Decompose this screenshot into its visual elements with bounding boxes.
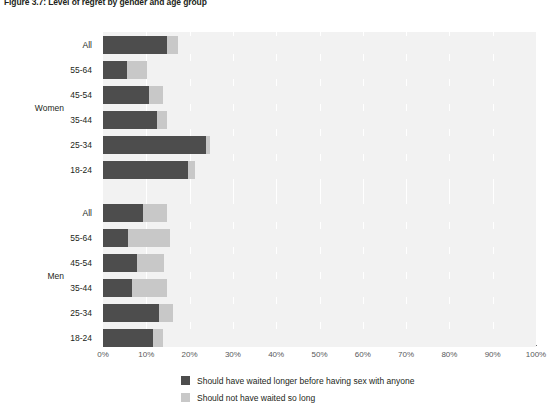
bar-row bbox=[103, 204, 536, 222]
bar-segment-waited-longer bbox=[103, 229, 128, 247]
bar-segment-waited-longer bbox=[103, 279, 132, 297]
bar-segment-not-waited-so-long bbox=[167, 36, 179, 54]
x-axis-tick-100: 100% bbox=[516, 350, 553, 359]
bar-segment-waited-longer bbox=[103, 36, 167, 54]
bar-segment-not-waited-so-long bbox=[127, 61, 147, 79]
category-label-men-25-34: 25-34 bbox=[0, 307, 92, 319]
category-label-women-55-64: 55-64 bbox=[0, 64, 92, 76]
bar-row bbox=[103, 61, 536, 79]
x-axis-tick-60: 60% bbox=[343, 350, 383, 359]
bar-segment-remainder bbox=[147, 61, 536, 79]
bar-row bbox=[103, 254, 536, 272]
category-label-women-35-44: 35-44 bbox=[0, 114, 92, 126]
x-axis-tick-70: 70% bbox=[386, 350, 426, 359]
category-label-men-all: All bbox=[0, 207, 92, 219]
bar-segment-remainder bbox=[178, 36, 536, 54]
bar-segment-remainder bbox=[167, 279, 536, 297]
bar-segment-not-waited-so-long bbox=[149, 86, 163, 104]
bar-segment-not-waited-so-long bbox=[132, 279, 167, 297]
bar-segment-waited-longer bbox=[103, 86, 149, 104]
legend-swatch-not-waited-so-long bbox=[181, 393, 190, 402]
bar-row bbox=[103, 36, 536, 54]
bar-segment-remainder bbox=[163, 329, 536, 347]
bar-row bbox=[103, 111, 536, 129]
bar-segment-not-waited-so-long bbox=[159, 304, 173, 322]
category-label-men-18-24: 18-24 bbox=[0, 332, 92, 344]
bar-segment-waited-longer bbox=[103, 136, 206, 154]
x-axis-tick-20: 20% bbox=[170, 350, 210, 359]
bar-segment-waited-longer bbox=[103, 254, 137, 272]
bar-row bbox=[103, 86, 536, 104]
bar-row bbox=[103, 136, 536, 154]
legend-swatch-waited-longer bbox=[181, 376, 190, 385]
bar-segment-remainder bbox=[163, 86, 536, 104]
bar-segment-waited-longer bbox=[103, 111, 157, 129]
bar-segment-not-waited-so-long bbox=[137, 254, 164, 272]
bar-row bbox=[103, 304, 536, 322]
bar-segment-waited-longer bbox=[103, 61, 127, 79]
bar-segment-remainder bbox=[195, 161, 536, 179]
bar-segment-remainder bbox=[167, 111, 536, 129]
category-label-women-45-54: 45-54 bbox=[0, 89, 92, 101]
bar-segment-remainder bbox=[167, 204, 536, 222]
legend-label: Should not have waited so long bbox=[197, 393, 315, 403]
bar-segment-waited-longer bbox=[103, 161, 188, 179]
x-axis-tick-30: 30% bbox=[213, 350, 253, 359]
bar-segment-remainder bbox=[164, 254, 536, 272]
bar-row bbox=[103, 329, 536, 347]
category-label-men-55-64: 55-64 bbox=[0, 232, 92, 244]
bar-segment-not-waited-so-long bbox=[157, 111, 167, 129]
bar-segment-remainder bbox=[170, 229, 536, 247]
chart-legend: Should have waited longer before having … bbox=[181, 372, 553, 406]
group-label-men: Men bbox=[18, 270, 64, 282]
category-label-men-45-54: 45-54 bbox=[0, 257, 92, 269]
category-label-women-18-24: 18-24 bbox=[0, 164, 92, 176]
bar-segment-not-waited-so-long bbox=[153, 329, 163, 347]
group-label-women: Women bbox=[18, 102, 64, 114]
x-axis-tick-90: 90% bbox=[473, 350, 513, 359]
legend-item[interactable]: Should not have waited so long bbox=[181, 389, 553, 406]
bar-segment-not-waited-so-long bbox=[188, 161, 195, 179]
category-label-women-all: All bbox=[0, 39, 92, 51]
x-axis-tick-10: 10% bbox=[126, 350, 166, 359]
category-label-women-25-34: 25-34 bbox=[0, 139, 92, 151]
bar-row bbox=[103, 279, 536, 297]
bar-segment-remainder bbox=[173, 304, 536, 322]
category-label-men-35-44: 35-44 bbox=[0, 282, 92, 294]
stacked-bar-chart: All55-6445-5435-4425-3418-24WomenAll55-6… bbox=[0, 0, 553, 407]
x-axis-tick-50: 50% bbox=[300, 350, 340, 359]
x-axis-tick-0: 0% bbox=[83, 350, 123, 359]
bar-row bbox=[103, 161, 536, 179]
bar-segment-remainder bbox=[210, 136, 536, 154]
x-axis-tick-40: 40% bbox=[256, 350, 296, 359]
legend-item[interactable]: Should have waited longer before having … bbox=[181, 372, 553, 389]
bar-segment-waited-longer bbox=[103, 304, 159, 322]
x-axis-tick-80: 80% bbox=[429, 350, 469, 359]
gridline-100 bbox=[536, 32, 537, 345]
legend-label: Should have waited longer before having … bbox=[197, 376, 414, 386]
bar-segment-waited-longer bbox=[103, 204, 143, 222]
bar-segment-not-waited-so-long bbox=[143, 204, 167, 222]
bar-row bbox=[103, 229, 536, 247]
bar-segment-not-waited-so-long bbox=[128, 229, 170, 247]
bar-segment-waited-longer bbox=[103, 329, 153, 347]
